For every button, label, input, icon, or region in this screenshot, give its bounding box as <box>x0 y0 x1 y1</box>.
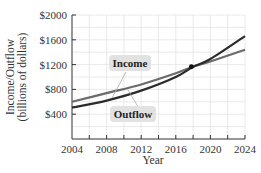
y-axis-title: Income/Outflow (billions of dollars) <box>4 32 29 121</box>
y-tick-label: $400 <box>45 108 68 120</box>
outflow-label: Outflow <box>110 106 156 122</box>
x-tick-label: 2016 <box>165 143 188 155</box>
y-tick-label: $1600 <box>40 34 68 46</box>
income-label-text: Income <box>113 57 148 69</box>
income-label: Income <box>109 55 151 71</box>
intersection-point <box>189 64 194 69</box>
y-tick-label: $1200 <box>40 59 68 71</box>
y-tick-label: $2000 <box>40 9 68 21</box>
grid-lines <box>72 15 245 139</box>
x-tick-label: 2020 <box>199 143 222 155</box>
x-tick-label: 2008 <box>96 143 119 155</box>
x-axis-title: Year <box>142 154 163 166</box>
y-axis-title-line2: (billions of dollars) <box>16 32 29 121</box>
y-tick-label: $800 <box>45 83 68 95</box>
y-axis-title-line1: Income/Outflow <box>4 38 16 115</box>
outflow-label-text: Outflow <box>114 108 153 120</box>
income-outflow-chart: $400$800$1200$1600$2000 2004200820122016… <box>0 0 261 173</box>
y-axis-ticks: $400$800$1200$1600$2000 <box>40 9 77 120</box>
x-axis-ticks: 200420082012201620202024 <box>61 135 257 155</box>
x-tick-label: 2004 <box>61 143 84 155</box>
x-tick-label: 2024 <box>234 143 257 155</box>
